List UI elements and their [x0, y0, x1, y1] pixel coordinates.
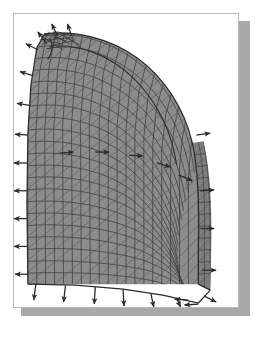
- fem-mesh-svg: [14, 14, 238, 307]
- figure-page: [13, 13, 239, 308]
- mesh-plot-area: [14, 14, 238, 307]
- figure-root: Finite element mesh of quarter shell str…: [0, 0, 264, 337]
- arrows-bottom-right: [175, 296, 217, 305]
